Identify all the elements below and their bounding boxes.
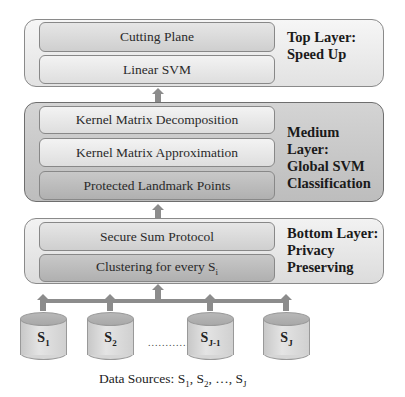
data-source-sj: SJ [263, 312, 310, 360]
kernel-matrix-approximation-label: Kernel Matrix Approximation [76, 145, 238, 161]
caption-sep: , …, S [209, 371, 244, 386]
top-layer-title-line1: Top Layer: [287, 29, 356, 46]
medium-layer: Kernel Matrix Decomposition Kernel Matri… [24, 102, 384, 202]
data-source-label: SJ [263, 330, 310, 348]
data-sources-caption: Data Sources: S1, S2, …, SJ [99, 371, 247, 389]
data-source-label: SJ-1 [187, 330, 234, 348]
clustering-label-text: Clustering for every S [96, 259, 216, 274]
arrow-up-icon [40, 300, 46, 311]
data-source-label: S2 [87, 330, 134, 348]
kernel-matrix-decomposition-label: Kernel Matrix Decomposition [76, 112, 239, 128]
protected-landmark-points-label: Protected Landmark Points [84, 178, 231, 194]
protected-landmark-points-box: Protected Landmark Points [39, 171, 275, 200]
data-source-label: S1 [20, 330, 67, 348]
clustering-box: Clustering for every Si [39, 254, 275, 282]
data-source-s1: S1 [20, 312, 67, 360]
arrow-up-icon [207, 300, 213, 311]
secure-sum-protocol-box: Secure Sum Protocol [39, 222, 275, 251]
medium-layer-title-line2: Global SVM [287, 158, 383, 175]
data-source-s2: S2 [87, 312, 134, 360]
ellipsis: ............ [148, 337, 190, 348]
caption-prefix: Data Sources: S [99, 371, 185, 386]
bottom-layer-title: Bottom Layer: Privacy Preserving [287, 225, 378, 276]
source-sub: J [288, 338, 293, 348]
cylinder-top [263, 312, 310, 326]
cylinder-top [87, 312, 134, 326]
cutting-plane-box: Cutting Plane [39, 22, 275, 52]
bottom-layer-title-line3: Preserving [287, 259, 378, 276]
cutting-plane-label: Cutting Plane [120, 29, 194, 45]
bottom-layer-title-line1: Bottom Layer: [287, 225, 378, 242]
connector-line [40, 299, 288, 303]
source-sub: J-1 [208, 338, 220, 348]
source-base: S [280, 330, 288, 345]
kernel-matrix-approximation-box: Kernel Matrix Approximation [39, 138, 275, 167]
medium-layer-title-line1: Medium Layer: [287, 124, 383, 158]
data-source-sj-minus-1: SJ-1 [187, 312, 234, 360]
bottom-layer: Secure Sum Protocol Clustering for every… [24, 218, 384, 284]
caption-sub: J [243, 379, 247, 389]
linear-svm-box: Linear SVM [39, 55, 275, 84]
secure-sum-protocol-label: Secure Sum Protocol [100, 229, 214, 245]
arrow-up-icon [107, 300, 113, 311]
arrow-up-icon [283, 300, 289, 311]
source-sub: 1 [45, 338, 50, 348]
source-base: S [37, 330, 45, 345]
source-sub: 2 [112, 338, 117, 348]
medium-layer-title-line3: Classification [287, 175, 383, 192]
cylinder-top [20, 312, 67, 326]
clustering-label-sub: i [216, 267, 219, 277]
top-layer-title-line2: Speed Up [287, 46, 356, 63]
top-layer: Cutting Plane Linear SVM Top Layer: Spee… [24, 19, 384, 87]
kernel-matrix-decomposition-box: Kernel Matrix Decomposition [39, 106, 275, 134]
arrow-up-icon [155, 210, 161, 218]
clustering-label: Clustering for every Si [96, 259, 218, 277]
arrow-up-icon [155, 94, 161, 102]
bottom-layer-title-line2: Privacy [287, 242, 378, 259]
top-layer-title: Top Layer: Speed Up [287, 29, 356, 63]
source-base: S [104, 330, 112, 345]
caption-sep: , S [190, 371, 204, 386]
medium-layer-title: Medium Layer: Global SVM Classification [287, 124, 383, 192]
cylinder-top [187, 312, 234, 326]
linear-svm-label: Linear SVM [123, 62, 191, 78]
